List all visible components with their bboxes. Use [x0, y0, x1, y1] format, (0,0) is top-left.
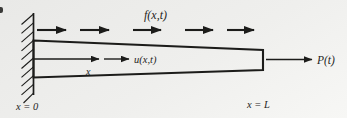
length-label: x = L: [246, 99, 270, 110]
diagram-svg: f(x,t) u(x,t) x P(t) x = 0 x = L: [0, 0, 347, 118]
end-load-label: P(t): [316, 54, 335, 67]
tapered-bar-diagram: f(x,t) u(x,t) x P(t) x = 0 x = L: [0, 0, 347, 118]
displacement-label: u(x,t): [134, 54, 157, 66]
fixed-support-wall: [22, 13, 34, 103]
origin-label: x = 0: [15, 101, 39, 112]
x-axis-label: x: [85, 66, 91, 77]
wall-hatching: [22, 14, 34, 103]
distributed-load-label: f(x,t): [144, 8, 167, 22]
